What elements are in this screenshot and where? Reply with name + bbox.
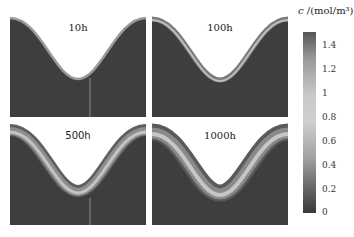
colorbar-title: c /(mol/m³) [298, 5, 354, 16]
colorbar-tick: 0.2 [322, 184, 336, 194]
panel-500h: 500h [10, 122, 146, 225]
colorbar-tick: 1 [322, 88, 328, 98]
colorbar [303, 32, 316, 213]
colorbar-tick: 0.6 [322, 136, 336, 146]
colorbar-tick: 0.8 [322, 112, 336, 122]
panel-label: 1000h [152, 130, 288, 141]
panel-1000h: 1000h [152, 122, 288, 225]
panel-10h: 10h [10, 14, 146, 117]
colorbar-unit: /(mol/m³) [304, 5, 354, 16]
panel-label: 100h [152, 22, 288, 33]
panel-label: 500h [10, 130, 146, 141]
colorbar-tick: 1.4 [322, 40, 336, 50]
colorbar-tick: 1.2 [322, 64, 336, 74]
colorbar-tick: 0 [322, 207, 328, 217]
panel-label: 10h [10, 22, 146, 33]
panel-100h: 100h [152, 14, 288, 117]
colorbar-tick: 0.4 [322, 160, 336, 170]
